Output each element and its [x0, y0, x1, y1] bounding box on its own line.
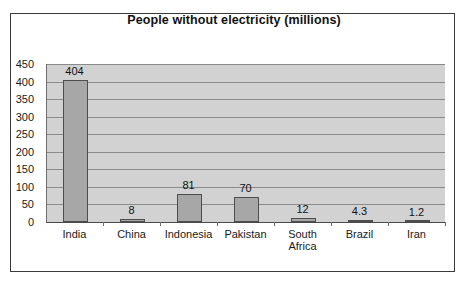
x-axis-category-label: Brazil — [331, 228, 388, 240]
gridline — [47, 134, 445, 135]
y-axis-tick-label: 400 — [4, 76, 34, 87]
bar-value-label: 1.2 — [388, 207, 445, 218]
y-axis-tick-label: 450 — [4, 59, 34, 70]
x-axis-category-label: Pakistan — [217, 228, 274, 240]
y-axis: 450400350300250200150100500 — [4, 51, 34, 223]
x-axis-tick — [274, 222, 275, 226]
x-axis-category-label: Iran — [388, 228, 445, 240]
chart-title: People without electricity (millions) — [0, 13, 468, 27]
y-axis-tick-label: 100 — [4, 181, 34, 192]
bar-value-label: 81 — [160, 180, 217, 191]
x-axis-tick — [388, 222, 389, 226]
gridline — [47, 117, 445, 118]
y-axis-tick-label: 300 — [4, 111, 34, 122]
gridline — [47, 99, 445, 100]
gridline — [47, 169, 445, 170]
gridline — [47, 152, 445, 153]
y-axis-tick-label: 350 — [4, 94, 34, 105]
x-axis-category-label: India — [46, 228, 103, 240]
y-axis-tick-label: 150 — [4, 164, 34, 175]
gridline — [47, 64, 445, 65]
bar-value-label: 70 — [217, 183, 274, 194]
y-axis-tick-label: 0 — [4, 217, 34, 228]
bar-value-label: 8 — [103, 205, 160, 216]
bar[interactable] — [234, 197, 259, 222]
bar-value-label: 404 — [46, 66, 103, 77]
x-axis-tick — [331, 222, 332, 226]
bar-value-label: 12 — [274, 204, 331, 215]
y-axis-tick-label: 200 — [4, 146, 34, 157]
x-axis-category-label: Indonesia — [160, 228, 217, 240]
x-axis-tick — [103, 222, 104, 226]
bar[interactable] — [63, 80, 88, 222]
y-axis-tick-label: 250 — [4, 129, 34, 140]
x-axis-line — [46, 222, 445, 223]
x-axis-category-label: China — [103, 228, 160, 240]
gridline — [47, 82, 445, 83]
bar-value-label: 4.3 — [331, 206, 388, 217]
x-axis-tick — [160, 222, 161, 226]
x-axis-tick — [445, 222, 446, 226]
x-axis-category-label: South Africa — [274, 228, 331, 252]
x-axis-tick — [217, 222, 218, 226]
bar[interactable] — [177, 194, 202, 222]
y-axis-tick-label: 50 — [4, 199, 34, 210]
plot-area — [46, 64, 445, 222]
